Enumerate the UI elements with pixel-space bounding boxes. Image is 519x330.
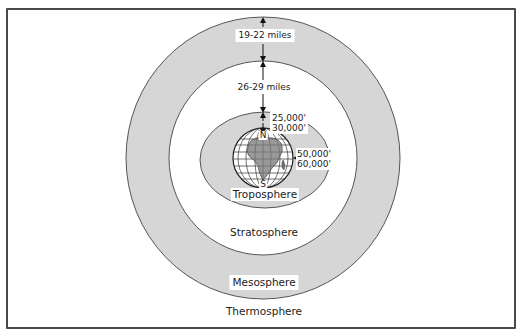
mesosphere-label: Mesosphere [229,275,298,290]
troposphere-polar-bottom: 30,000' [272,123,306,133]
mesosphere-thickness-label: 19-22 miles [235,29,294,42]
troposphere-equator-top: 50,000' [297,149,331,159]
north-pole-label: N [259,131,268,140]
troposphere-polar-height-label: 25,000' 30,000' [270,112,308,134]
troposphere-equator-height-label: 50,000' 60,000' [296,148,332,170]
stratosphere-thickness-label: 26-29 miles [234,81,293,94]
stratosphere-label: Stratosphere [230,227,298,238]
troposphere-polar-top: 25,000' [272,113,306,123]
troposphere-equator-bottom: 60,000' [297,159,331,169]
thermosphere-label: Thermosphere [226,306,302,317]
troposphere-label: Troposphere [231,188,299,201]
